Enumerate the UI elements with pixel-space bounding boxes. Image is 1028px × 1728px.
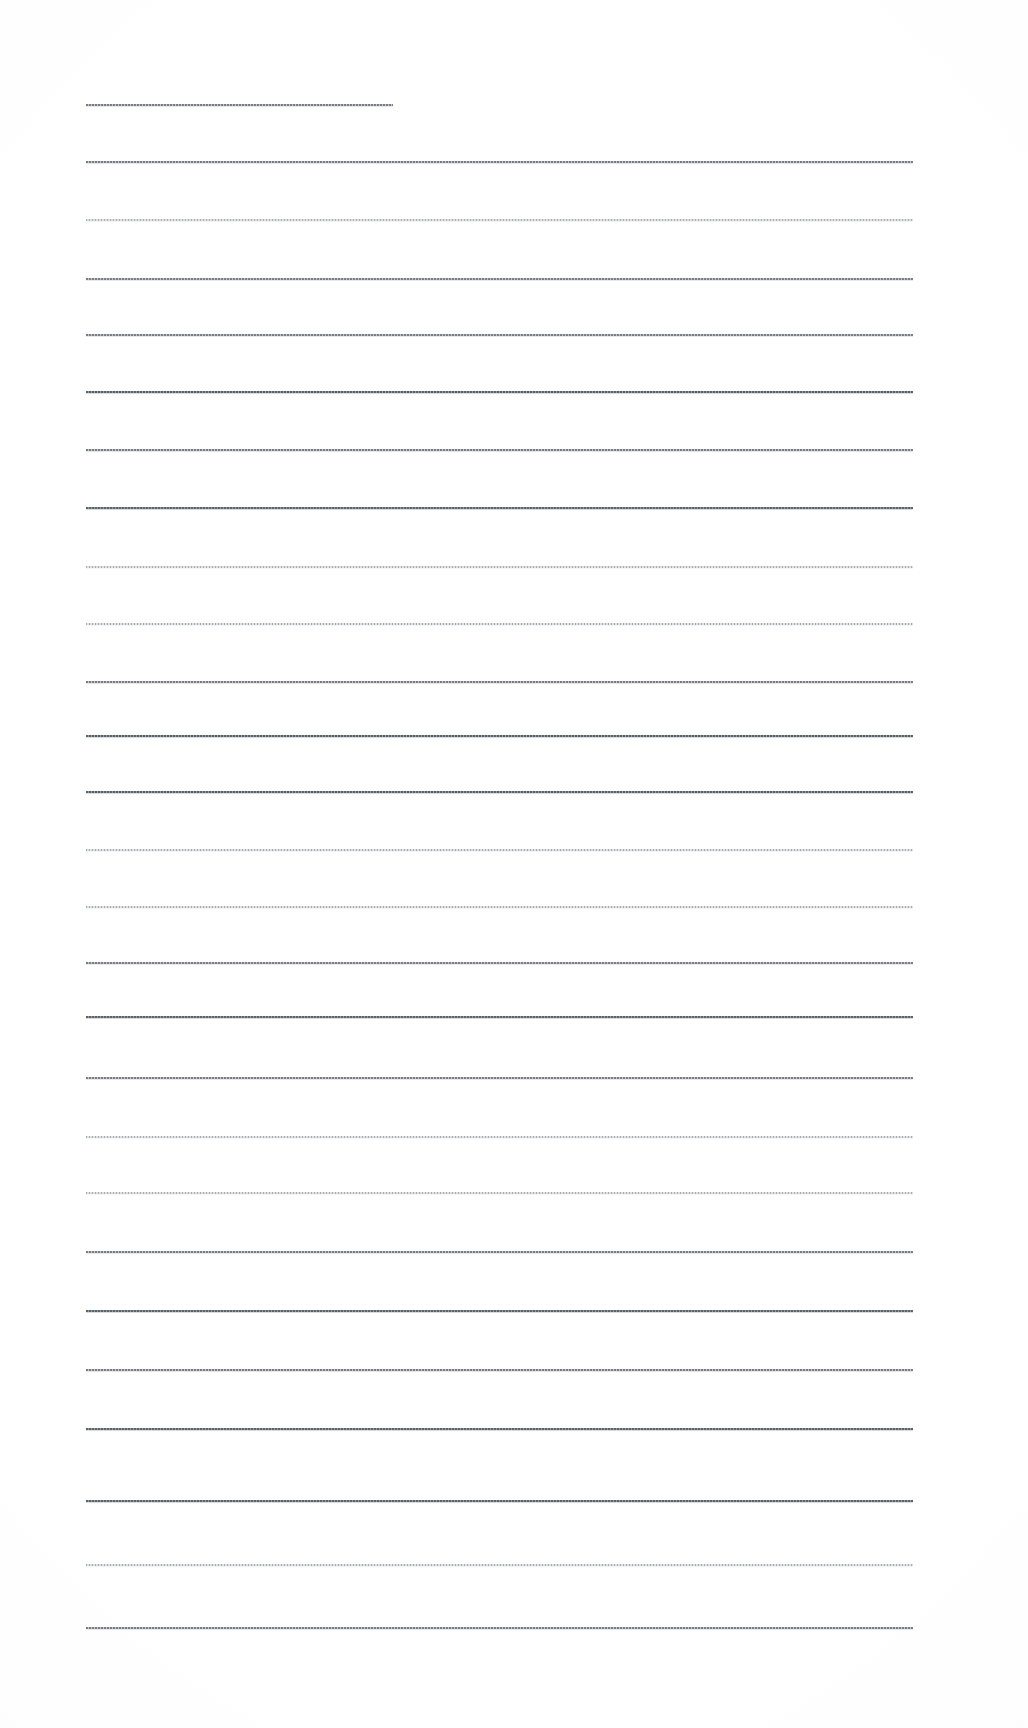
rule-line — [86, 791, 913, 793]
rule-line — [86, 1136, 913, 1138]
rule-line — [86, 391, 913, 393]
rule-line — [86, 1627, 913, 1629]
rule-line — [86, 1192, 913, 1194]
rule-line — [86, 334, 913, 336]
rule-line — [86, 681, 913, 683]
rule-line — [86, 1016, 913, 1018]
document-page — [0, 0, 1028, 1728]
rule-line — [86, 566, 913, 568]
rule-line — [86, 1310, 913, 1312]
rule-line — [86, 1564, 913, 1566]
rule-line — [86, 161, 913, 163]
rule-line — [86, 507, 913, 509]
rule-line — [86, 1251, 913, 1253]
ruled-lines-layer — [0, 0, 1028, 1728]
rule-line-partial — [86, 104, 393, 106]
rule-line — [86, 623, 913, 625]
rule-line — [86, 1500, 913, 1502]
rule-line — [86, 849, 913, 851]
rule-line — [86, 735, 913, 737]
rule-line — [86, 906, 913, 908]
rule-line — [86, 1428, 913, 1430]
rule-line — [86, 1077, 913, 1079]
rule-line — [86, 1369, 913, 1371]
rule-line — [86, 449, 913, 451]
rule-line — [86, 219, 913, 221]
rule-line — [86, 278, 913, 280]
rule-line — [86, 962, 913, 964]
